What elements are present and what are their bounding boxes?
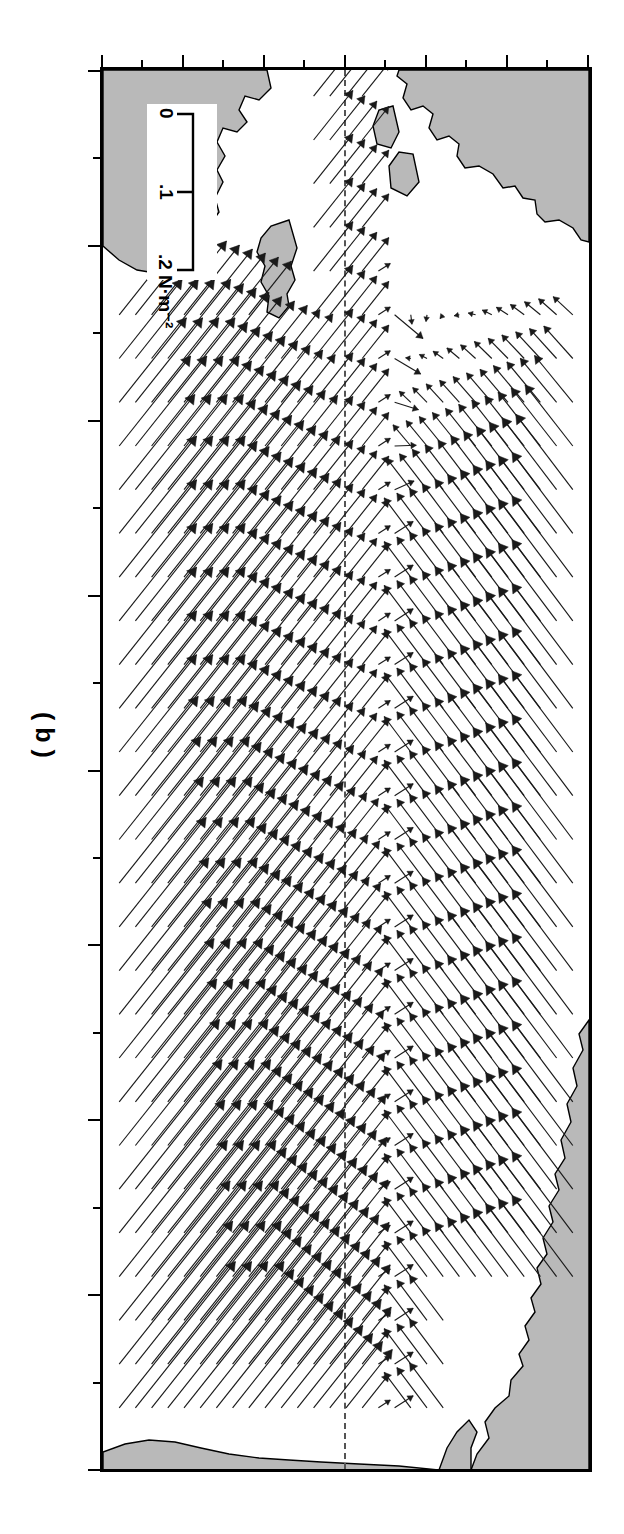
map-clip: 0 .1 .2 N·m⁻² xyxy=(103,70,589,1469)
x-tick-minor xyxy=(93,332,101,334)
x-tick-minor xyxy=(93,1207,101,1209)
map-plot-area: 0 .1 .2 N·m⁻² xyxy=(100,67,592,1472)
x-tick-minor xyxy=(93,1032,101,1034)
y-tick-minor xyxy=(385,60,387,68)
y-tick-major xyxy=(425,55,427,68)
x-tick-major xyxy=(88,70,101,72)
scale-legend: 0 .1 .2 N·m⁻² xyxy=(147,104,217,280)
y-tick-major xyxy=(101,55,103,68)
y-tick-minor xyxy=(466,60,468,68)
y-tick-minor xyxy=(304,60,306,68)
y-tick-minor xyxy=(142,60,144,68)
x-tick-major xyxy=(88,595,101,597)
x-tick-major xyxy=(88,420,101,422)
scale-tick-2-unit: .2 N·m⁻² xyxy=(154,254,177,328)
x-tick-major xyxy=(88,1119,101,1121)
y-tick-major xyxy=(182,55,184,68)
figure-stage: AUGUST ( b ) xyxy=(0,0,624,1534)
scale-tick-1: .1 xyxy=(155,184,177,200)
x-tick-major xyxy=(88,245,101,247)
x-tick-minor xyxy=(93,857,101,859)
x-tick-minor xyxy=(93,1382,101,1384)
y-tick-major xyxy=(263,55,265,68)
x-tick-minor xyxy=(93,157,101,159)
panel-label: ( b ) xyxy=(30,712,59,758)
x-tick-major xyxy=(88,770,101,772)
y-tick-minor xyxy=(547,60,549,68)
x-tick-major xyxy=(88,1294,101,1296)
x-tick-minor xyxy=(93,507,101,509)
y-tick-major xyxy=(344,55,346,68)
x-tick-major xyxy=(88,944,101,946)
x-tick-major xyxy=(88,1469,101,1471)
scale-tick-0: 0 xyxy=(155,108,177,119)
y-tick-minor xyxy=(223,60,225,68)
y-tick-major xyxy=(587,55,589,68)
x-tick-minor xyxy=(93,682,101,684)
y-tick-major xyxy=(506,55,508,68)
